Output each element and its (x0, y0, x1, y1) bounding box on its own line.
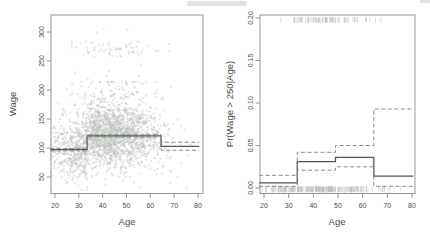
upper-confidence-band (259, 109, 413, 175)
y-tick-label: 0.20 (247, 11, 254, 25)
y-tick-label: 0.00 (247, 181, 254, 195)
y-tick-label: 0.10 (247, 96, 254, 110)
y-tick-label: 0.05 (247, 139, 254, 153)
tick-labels: 203040506070800.000.050.100.150.20 (247, 11, 416, 208)
right-plot-content: 203040506070800.000.050.100.150.20 (247, 11, 416, 208)
y-tick-label: 150 (38, 113, 45, 125)
x-tick-label: 20 (51, 202, 59, 209)
y-tick-label: 0.15 (247, 54, 254, 68)
x-tick-label: 70 (383, 202, 391, 209)
x-tick-label: 20 (260, 202, 268, 209)
rug-bottom-observations (262, 186, 401, 193)
x-tick-label: 50 (334, 202, 342, 209)
left-y-axis-title: Wage (7, 92, 18, 116)
x-tick-label: 80 (408, 202, 416, 209)
right-x-axis-title: Age (329, 216, 346, 227)
wage-age-scatter-plot: Wage Age 2030405060708050100150200250300 (0, 0, 215, 246)
x-tick-label: 30 (285, 202, 293, 209)
step-fit-line (259, 157, 413, 183)
scatter-points (49, 27, 192, 191)
figure-canvas: Wage Age 2030405060708050100150200250300… (0, 0, 430, 246)
x-tick-label: 60 (146, 202, 154, 209)
y-tick-label: 50 (38, 173, 45, 181)
x-tick-label: 40 (99, 202, 107, 209)
x-tick-label: 70 (170, 202, 178, 209)
y-tick-label: 250 (38, 55, 45, 67)
y-tick-label: 300 (38, 26, 45, 38)
x-tick-label: 40 (309, 202, 317, 209)
scan-artifact-small (420, 0, 430, 3)
x-tick-label: 80 (194, 202, 202, 209)
x-tick-label: 50 (123, 202, 131, 209)
y-tick-label: 200 (38, 84, 45, 96)
x-tick-label: 60 (359, 202, 367, 209)
x-tick-label: 30 (75, 202, 83, 209)
right-y-axis-title: Pr(Wage > 250|Age) (224, 61, 235, 147)
left-x-axis-title: Age (119, 216, 136, 227)
y-tick-label: 100 (38, 142, 45, 154)
scan-artifact (187, 1, 247, 6)
wage-probability-plot: Pr(Wage > 250|Age) Age 203040506070800.0… (215, 0, 430, 246)
left-plot-content: 2030405060708050100150200250300 (38, 15, 203, 209)
rug-top-high-earners (281, 17, 381, 24)
